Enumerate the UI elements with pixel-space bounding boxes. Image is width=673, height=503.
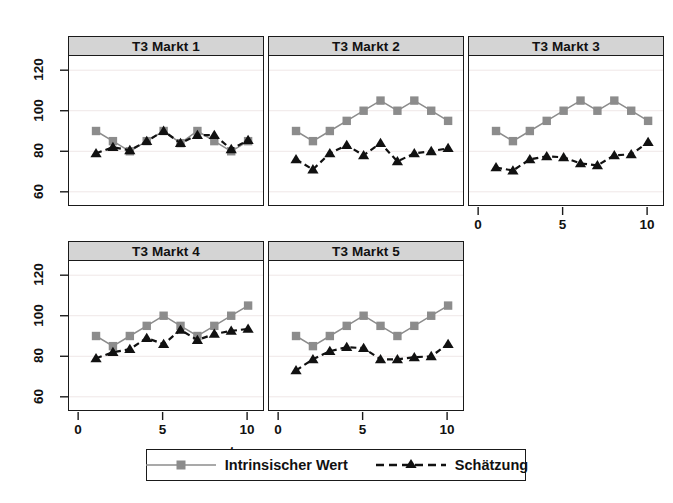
x-axis-ticks xyxy=(68,411,264,420)
x-tick-label: 10 xyxy=(235,422,259,437)
panel-plot-svg xyxy=(269,261,464,411)
triangle-marker xyxy=(341,140,352,149)
triangle-marker xyxy=(626,149,637,158)
triangle-marker xyxy=(290,154,301,163)
square-marker xyxy=(292,127,300,135)
series-line-2 xyxy=(296,344,448,370)
series-line-2 xyxy=(296,143,448,169)
panel-title-label: T3 Markt 5 xyxy=(332,244,400,259)
y-tick-label: 100 xyxy=(31,298,46,332)
triangle-marker xyxy=(643,137,654,146)
chart-legend: Intrinsischer WertSchätzung xyxy=(146,449,526,481)
panel-plot-svg xyxy=(269,56,464,206)
legend-key-square xyxy=(144,457,218,473)
panel-title-label: T3 Markt 2 xyxy=(332,39,400,54)
y-tick-label: 60 xyxy=(31,379,46,413)
square-marker xyxy=(244,301,252,309)
y-tick-label: 80 xyxy=(31,339,46,373)
x-tick-label: 0 xyxy=(466,217,490,232)
triangle-marker xyxy=(290,365,301,374)
square-marker xyxy=(410,96,418,104)
series-line-1 xyxy=(496,101,648,142)
y-axis-ticks xyxy=(59,261,68,411)
series-line-2 xyxy=(496,142,648,170)
panel-title-strip: T3 Markt 5 xyxy=(268,241,464,261)
x-tick-label: 5 xyxy=(551,217,575,232)
square-marker xyxy=(343,117,351,125)
y-tick-label: 120 xyxy=(31,258,46,292)
panel-plot-svg xyxy=(469,56,664,206)
square-marker xyxy=(593,107,601,115)
square-marker xyxy=(627,107,635,115)
panel-plot-svg xyxy=(69,261,264,411)
panel-plot-svg xyxy=(69,56,264,206)
triangle-marker xyxy=(124,344,135,353)
triangle-marker xyxy=(443,143,454,152)
legend-item-2: Schätzung xyxy=(374,457,528,473)
panel-title-label: T3 Markt 3 xyxy=(532,39,600,54)
square-marker xyxy=(576,96,584,104)
plot-area xyxy=(68,261,264,411)
square-marker xyxy=(559,107,567,115)
square-marker xyxy=(92,127,100,135)
square-marker xyxy=(410,322,418,330)
square-marker xyxy=(492,127,500,135)
panel-3: T3 Markt 3 xyxy=(468,36,664,206)
triangle-marker xyxy=(358,343,369,352)
square-marker xyxy=(159,312,167,320)
plot-area xyxy=(268,261,464,411)
x-tick-label: 5 xyxy=(351,422,375,437)
panel-title-strip: T3 Markt 2 xyxy=(268,36,464,56)
triangle-marker xyxy=(209,130,220,139)
square-marker xyxy=(326,127,334,135)
x-tick-label: 10 xyxy=(435,422,459,437)
square-marker xyxy=(343,322,351,330)
panel-5: T3 Markt 5 xyxy=(268,241,464,411)
panel-title-strip: T3 Markt 4 xyxy=(68,241,264,261)
y-tick-label: 100 xyxy=(31,93,46,127)
square-marker xyxy=(326,332,334,340)
square-marker xyxy=(427,107,435,115)
square-marker xyxy=(427,312,435,320)
series-line-1 xyxy=(296,306,448,347)
panel-title-strip: T3 Markt 1 xyxy=(68,36,264,56)
square-marker xyxy=(526,127,534,135)
panel-title-label: T3 Markt 4 xyxy=(132,244,200,259)
square-marker xyxy=(176,461,185,470)
x-tick-label: 0 xyxy=(266,422,290,437)
triangle-marker xyxy=(141,333,152,342)
triangle-marker xyxy=(158,339,169,348)
square-marker xyxy=(444,117,452,125)
square-marker xyxy=(92,332,100,340)
plot-area xyxy=(268,56,464,206)
triangle-marker xyxy=(405,459,416,468)
trellis-figure: T3 Markt 16080100120T3 Markt 2T3 Markt 3… xyxy=(0,0,673,503)
square-marker xyxy=(359,107,367,115)
x-axis-ticks xyxy=(468,206,664,215)
square-marker xyxy=(309,137,317,145)
square-marker xyxy=(292,332,300,340)
square-marker xyxy=(227,312,235,320)
panel-title-label: T3 Markt 1 xyxy=(132,39,200,54)
triangle-marker xyxy=(490,162,501,171)
plot-area xyxy=(468,56,664,206)
square-marker xyxy=(309,342,317,350)
triangle-marker xyxy=(375,138,386,147)
triangle-marker xyxy=(443,339,454,348)
series-line-1 xyxy=(296,101,448,142)
square-marker xyxy=(393,107,401,115)
x-tick-label: 10 xyxy=(635,217,659,232)
square-marker xyxy=(444,301,452,309)
x-tick-label: 5 xyxy=(151,422,175,437)
x-axis-ticks xyxy=(268,411,464,420)
square-marker xyxy=(644,117,652,125)
panel-2: T3 Markt 2 xyxy=(268,36,464,206)
triangle-marker xyxy=(541,151,552,160)
square-marker xyxy=(509,137,517,145)
square-marker xyxy=(143,322,151,330)
square-marker xyxy=(610,96,618,104)
series-line-1 xyxy=(96,306,248,347)
panel-4: T3 Markt 4 xyxy=(68,241,264,411)
square-marker xyxy=(393,332,401,340)
y-axis-ticks xyxy=(59,56,68,206)
